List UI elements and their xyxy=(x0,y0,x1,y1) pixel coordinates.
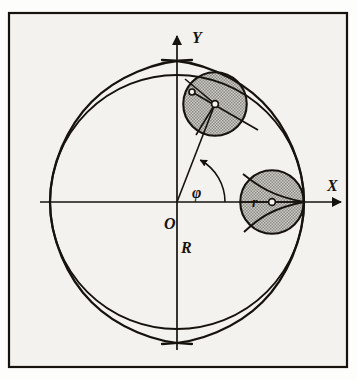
contact-marker-phi xyxy=(189,89,195,95)
center-marker-phi xyxy=(212,101,219,108)
figure-container: Y X O R φ r xyxy=(0,0,357,380)
origin-label: O xyxy=(164,215,176,232)
x-axis-label: X xyxy=(326,177,338,194)
astroid-diagram: Y X O R φ r xyxy=(0,0,357,380)
small-radius-label: r xyxy=(252,195,258,210)
center-marker-zero xyxy=(269,199,276,206)
y-axis-label: Y xyxy=(192,29,203,46)
big-radius-label: R xyxy=(180,239,192,256)
angle-label: φ xyxy=(192,184,201,202)
